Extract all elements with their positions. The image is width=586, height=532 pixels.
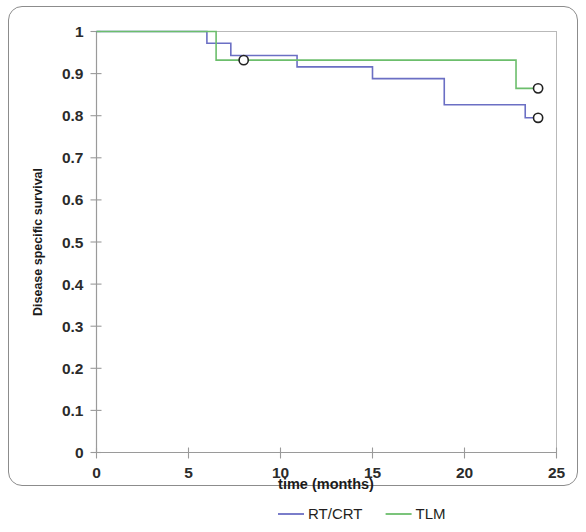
series-line-rt-crt — [97, 32, 539, 118]
x-tick-label: 20 — [456, 464, 473, 481]
censor-marker — [534, 113, 543, 122]
x-tick-label: 25 — [548, 464, 566, 481]
y-axis-title: Disease specific survival — [31, 168, 45, 316]
y-tick-label: 0.2 — [62, 360, 84, 377]
y-tick-label: 0.7 — [62, 149, 84, 166]
y-tick-label: 0.9 — [62, 65, 84, 82]
y-tick-label: 0.5 — [62, 234, 84, 251]
x-axis-title: time (months) — [278, 476, 374, 492]
y-axis-tick-labels: 00.10.20.30.40.50.60.70.80.91 — [62, 23, 84, 461]
series-group — [97, 32, 539, 118]
censor-marker — [239, 56, 248, 65]
y-tick-label: 0.8 — [62, 107, 84, 124]
y-tick-label: 0.6 — [62, 191, 84, 208]
y-tick-label: 0.1 — [62, 402, 84, 419]
x-tick-label: 5 — [184, 464, 193, 481]
y-tick-label: 1 — [75, 23, 84, 40]
y-tick-label: 0 — [75, 444, 84, 461]
survival-chart: 00.10.20.30.40.50.60.70.80.91 0510152025… — [0, 0, 586, 532]
censor-markers — [239, 56, 543, 123]
series-line-tlm — [97, 32, 539, 89]
legend-label: RT/CRT — [308, 505, 362, 522]
y-tick-label: 0.3 — [62, 318, 84, 335]
legend-label: TLM — [416, 505, 446, 522]
censor-marker — [534, 84, 543, 93]
legend: RT/CRTTLM — [278, 505, 446, 522]
y-tick-label: 0.4 — [62, 276, 84, 293]
plot-frame — [97, 32, 557, 453]
x-tick-label: 0 — [92, 464, 101, 481]
